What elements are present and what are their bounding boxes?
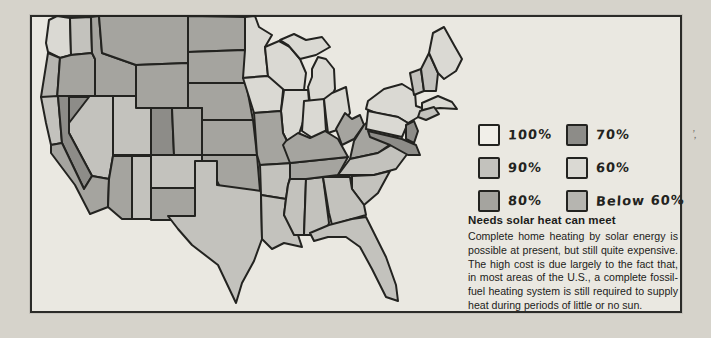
legend-swatch-c80 [478, 190, 500, 212]
region-kansas [202, 120, 257, 155]
legend-item-90-: 90% [478, 157, 566, 179]
region-arizona-east [132, 156, 151, 219]
legend-label: Below 60% [596, 192, 686, 209]
legend-item-80-: 80% [478, 190, 566, 212]
legend-item-60-: 60% [566, 157, 685, 179]
caption-title: Needs solar heat can meet [468, 214, 678, 226]
legend-item-70-: 70% [566, 124, 685, 146]
region-montana [99, 16, 188, 65]
region-colorado-east [172, 108, 202, 155]
region-arizona-west [108, 156, 132, 219]
legend-swatch-c60 [566, 157, 588, 179]
region-washington-west [46, 16, 71, 58]
stray-ink-mark: ’, [691, 128, 699, 141]
legend-swatch-c90 [478, 157, 500, 179]
legend-item-below-60-: Below 60% [566, 190, 685, 212]
region-colorado-west [151, 108, 174, 155]
legend-label: 60% [596, 160, 631, 176]
legend-label: 80% [508, 193, 543, 209]
legend-item-100-: 100% [478, 124, 566, 146]
legend-swatch-c100 [478, 124, 500, 146]
region-north-dakota [188, 16, 245, 52]
legend-label: 100% [508, 127, 553, 143]
region-oregon-inland [57, 53, 95, 99]
caption-body: Complete home heating by solar energy is… [468, 230, 678, 313]
region-florida [310, 217, 398, 301]
legend-label: 90% [508, 160, 543, 176]
legend: 100%90%80%70%60%Below 60% [478, 118, 685, 217]
us-map [32, 13, 468, 311]
caption-block: Needs solar heat can meet Complete home … [468, 214, 678, 313]
legend-label: 70% [596, 127, 631, 143]
region-south-dakota [188, 50, 246, 83]
legend-swatch-cb60 [566, 190, 588, 212]
legend-swatch-c70 [566, 124, 588, 146]
region-wyoming [136, 63, 188, 108]
region-washington-east [70, 17, 92, 55]
region-new-jersey [406, 121, 418, 143]
scanned-figure-page: 100%90%80%70%60%Below 60% Needs solar he… [0, 0, 711, 338]
